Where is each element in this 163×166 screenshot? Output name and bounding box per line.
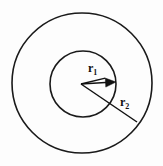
r1-label: r1 (88, 62, 97, 77)
diagram-canvas (0, 0, 163, 166)
concentric-circles-figure: r1 r2 (0, 0, 163, 166)
r2-label-subscript: 2 (125, 102, 129, 111)
r2-label: r2 (120, 96, 129, 111)
r1-arrowhead-icon (105, 78, 116, 87)
r1-label-subscript: 1 (93, 68, 97, 77)
